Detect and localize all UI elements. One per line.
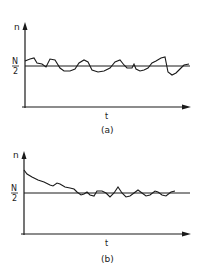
diagram-canvas: n N 2 t (a) n N 2 t (b) [0, 0, 204, 278]
x-axis-arrow-icon-b [182, 232, 191, 237]
panel-b: n N 2 t (b) [11, 150, 191, 264]
level-label-den-a: 2 [13, 67, 18, 76]
x-axis-arrow-icon-a [182, 105, 191, 110]
level-label-num-a: N [12, 57, 18, 66]
y-axis-label-b: n [13, 150, 19, 160]
x-axis-label-a: t [105, 112, 108, 121]
y-axis-arrow-icon-b [22, 151, 27, 159]
panel-a: n N 2 t (a) [12, 22, 191, 135]
y-axis-arrow-icon-a [23, 22, 28, 30]
caption-b: (b) [101, 254, 114, 264]
x-axis-label-b: t [105, 239, 108, 248]
y-axis-label-a: n [14, 22, 20, 32]
level-label-num-b: N [11, 184, 17, 193]
caption-a: (a) [101, 125, 114, 135]
level-label-den-b: 2 [12, 194, 17, 203]
